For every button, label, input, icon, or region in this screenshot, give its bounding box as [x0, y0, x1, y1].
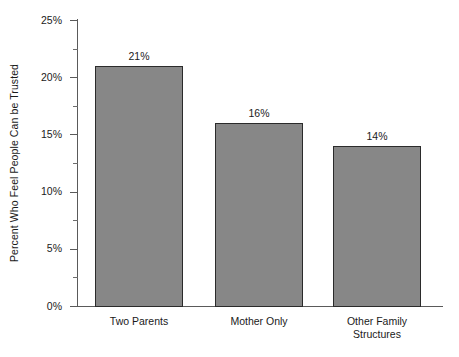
- x-axis-category-label-line: Structures: [307, 328, 447, 341]
- bar-chart: Percent Who Feel People Can be Trusted 0…: [0, 0, 459, 357]
- bar: [333, 146, 421, 307]
- y-axis-tick-label: 25%: [0, 14, 66, 25]
- y-axis-tick-label: 0%: [0, 300, 66, 311]
- bar: [95, 66, 183, 307]
- y-axis-tick-minor: [73, 49, 78, 50]
- y-axis-tick-major: [70, 306, 78, 307]
- bar-value-label: 14%: [333, 131, 421, 142]
- y-axis-title: Percent Who Feel People Can be Trusted: [6, 20, 22, 306]
- x-axis-category-label: Two Parents: [69, 315, 209, 328]
- x-axis-category-label-line: Other Family: [307, 315, 447, 328]
- y-axis-tick-label: 5%: [0, 243, 66, 254]
- y-axis-tick-minor: [73, 277, 78, 278]
- y-axis-title-container: Percent Who Feel People Can be Trusted: [6, 20, 26, 306]
- x-axis-category-label-line: Two Parents: [69, 315, 209, 328]
- y-axis-tick-major: [70, 134, 78, 135]
- y-axis-tick-label: 20%: [0, 71, 66, 82]
- y-axis-tick-minor: [73, 220, 78, 221]
- y-axis-tick-major: [70, 192, 78, 193]
- y-axis-tick-label: 10%: [0, 186, 66, 197]
- y-axis-tick-minor: [73, 106, 78, 107]
- bar-value-label: 21%: [95, 51, 183, 62]
- y-axis-tick-label: 15%: [0, 128, 66, 139]
- bar: [215, 123, 303, 307]
- y-axis-tick-major: [70, 249, 78, 250]
- y-axis-tick-minor: [73, 163, 78, 164]
- y-axis-tick-major: [70, 77, 78, 78]
- y-axis-tick-major: [70, 20, 78, 21]
- bar-value-label: 16%: [215, 108, 303, 119]
- x-axis-category-label: Other FamilyStructures: [307, 315, 447, 341]
